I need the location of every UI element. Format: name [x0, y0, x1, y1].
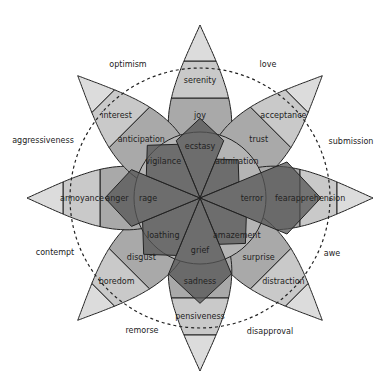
- petal-label-distraction: distraction: [262, 277, 305, 286]
- dyad-label-love: love: [260, 60, 277, 69]
- dyad-label-aggressiveness: aggressiveness: [12, 136, 74, 145]
- petal-label-ecstasy: ecstasy: [185, 142, 216, 151]
- dyad-label-submission: submission: [329, 137, 374, 146]
- petal-label-annoyance: annoyance: [60, 194, 104, 203]
- petal-label-terror: terror: [241, 194, 264, 203]
- petal-label-sadness: sadness: [184, 277, 216, 286]
- dyad-label-optimism: optimism: [109, 60, 147, 69]
- emotion-wheel: ecstasyjoyserenityadmirationtrustaccepta…: [0, 0, 388, 392]
- petal-label-grief: grief: [191, 246, 210, 255]
- dyad-label-awe: awe: [324, 249, 340, 258]
- petal-label-apprehension: apprehension: [291, 194, 346, 203]
- petal-label-boredom: boredom: [99, 277, 135, 286]
- petal-label-loathing: loathing: [147, 231, 180, 240]
- petal-label-admiration: admiration: [215, 157, 259, 166]
- petal-label-fear: fear: [275, 194, 292, 203]
- petal-label-disgust: disgust: [127, 253, 156, 262]
- petal-label-amazement: amazement: [213, 231, 261, 240]
- petal-label-serenity: serenity: [184, 76, 217, 85]
- petal-label-pensiveness: pensiveness: [175, 312, 224, 321]
- dyad-label-contempt: contempt: [36, 248, 74, 257]
- petal-label-joy: joy: [193, 111, 206, 120]
- petal-label-anger: anger: [105, 194, 129, 203]
- petal-label-interest: interest: [101, 111, 132, 120]
- dyad-label-disapproval: disapproval: [247, 327, 293, 336]
- petal-label-acceptance: acceptance: [260, 111, 306, 120]
- petal-label-surprise: surprise: [243, 253, 275, 262]
- petal-label-anticipation: anticipation: [118, 135, 165, 144]
- petal-label-vigilance: vigilance: [145, 157, 181, 166]
- petal-label-trust: trust: [249, 135, 268, 144]
- dyad-label-remorse: remorse: [125, 326, 158, 335]
- petal-label-rage: rage: [139, 194, 157, 203]
